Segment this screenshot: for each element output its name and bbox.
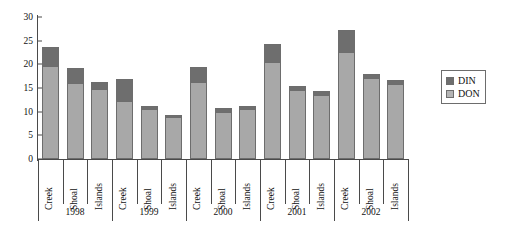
x-axis-group-divider xyxy=(408,159,409,221)
x-axis-category-label-2002-islands: Islands xyxy=(390,160,442,210)
legend-item-don: DON xyxy=(446,87,480,100)
x-axis-category-divider xyxy=(383,159,384,204)
bar-segment-don xyxy=(239,109,256,159)
x-axis-category-divider xyxy=(87,159,88,204)
bar-2000-shoal xyxy=(215,108,232,159)
y-axis-tick-30: 30 xyxy=(24,12,34,22)
legend-item-din: DIN xyxy=(446,74,480,87)
legend-label-don: DON xyxy=(458,89,480,99)
y-axis-tick-25: 25 xyxy=(24,36,34,46)
bar-segment-din xyxy=(42,47,59,65)
bar-segment-don xyxy=(42,66,59,159)
y-axis-tick-15: 15 xyxy=(24,83,34,93)
bar-segment-don xyxy=(67,83,84,159)
y-axis-tick-mark-25 xyxy=(38,40,42,41)
x-axis-group-divider xyxy=(260,159,261,221)
bar-segment-din xyxy=(338,30,355,52)
x-axis-category-divider xyxy=(137,159,138,204)
bar-segment-don xyxy=(363,78,380,159)
x-axis-category-divider xyxy=(285,159,286,204)
bar-2000-creek xyxy=(190,67,207,159)
x-axis-group-label-1999: 1999 xyxy=(112,207,186,217)
chart-legend: DIN DON xyxy=(441,70,486,104)
bar-2001-shoal xyxy=(289,86,306,159)
x-axis-group-label-2001: 2001 xyxy=(260,207,334,217)
y-axis-tick-10: 10 xyxy=(24,107,34,117)
bar-1999-islands xyxy=(165,115,182,159)
bar-1998-islands xyxy=(91,82,108,159)
bar-2002-islands xyxy=(387,80,404,160)
x-axis-category-divider xyxy=(63,159,64,204)
bar-1998-creek xyxy=(42,47,59,159)
x-axis-group-label-2002: 2002 xyxy=(334,207,408,217)
bar-segment-din xyxy=(264,44,281,61)
legend-swatch-din-icon xyxy=(446,77,454,85)
legend-swatch-don-icon xyxy=(446,90,454,98)
x-axis-category-divider xyxy=(211,159,212,204)
bar-segment-don xyxy=(215,112,232,159)
bars-container xyxy=(38,17,408,159)
bar-segment-don xyxy=(289,90,306,159)
y-axis-tick-mark-5 xyxy=(38,135,42,136)
y-axis-tick-mark-15 xyxy=(38,88,42,89)
y-axis-tick-labels: 051015202530 xyxy=(0,0,33,228)
bar-segment-don xyxy=(190,82,207,159)
y-axis-tick-mark-0 xyxy=(38,159,42,160)
y-axis-tick-mark-20 xyxy=(38,64,42,65)
x-axis-category-divider xyxy=(309,159,310,204)
bar-segment-don xyxy=(338,52,355,159)
bar-segment-don xyxy=(313,95,330,159)
x-axis-category-divider xyxy=(161,159,162,204)
bar-1999-creek xyxy=(116,79,133,159)
bar-segment-din xyxy=(91,82,108,89)
x-axis-category-divider xyxy=(235,159,236,204)
x-axis-category-divider xyxy=(359,159,360,204)
y-axis-tick-0: 0 xyxy=(28,154,33,164)
x-axis-group-divider xyxy=(334,159,335,221)
legend-label-din: DIN xyxy=(458,76,476,86)
bar-2001-creek xyxy=(264,44,281,159)
y-axis-tick-20: 20 xyxy=(24,59,34,69)
bar-2001-islands xyxy=(313,91,330,159)
bar-1998-shoal xyxy=(67,68,84,159)
x-axis-group-label-2000: 2000 xyxy=(186,207,260,217)
bar-segment-din xyxy=(190,67,207,82)
y-axis-tick-mark-30 xyxy=(38,17,42,18)
bar-segment-don xyxy=(264,62,281,160)
x-axis-group-divider xyxy=(38,159,39,221)
bar-segment-din xyxy=(67,68,84,83)
bar-segment-don xyxy=(141,109,158,159)
bar-2000-islands xyxy=(239,106,256,159)
bar-2002-shoal xyxy=(363,74,380,159)
y-axis-tick-5: 5 xyxy=(28,130,33,140)
y-axis-tick-mark-10 xyxy=(38,111,42,112)
bar-segment-don xyxy=(165,117,182,159)
x-axis-group-divider xyxy=(112,159,113,221)
bar-segment-don xyxy=(387,84,404,159)
stacked-bar-chart: 051015202530 CreekShoalIslands1998CreekS… xyxy=(0,0,506,228)
bar-segment-don xyxy=(91,89,108,159)
bar-segment-don xyxy=(116,101,133,159)
bar-2002-creek xyxy=(338,30,355,159)
bar-1999-shoal xyxy=(141,106,158,159)
x-axis-group-divider xyxy=(186,159,187,221)
bar-segment-din xyxy=(116,79,133,102)
x-axis-group-label-1998: 1998 xyxy=(38,207,112,217)
